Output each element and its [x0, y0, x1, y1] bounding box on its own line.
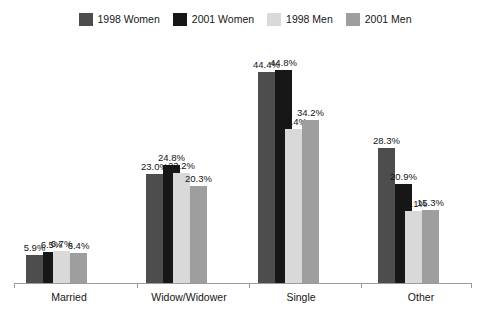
- bar-slot: 23.2%: [173, 40, 190, 283]
- bar-slot: 32.4%: [285, 40, 302, 283]
- legend-label: 1998 Women: [98, 13, 160, 26]
- legend-label: 2001 Men: [365, 13, 412, 26]
- legend-entry: 1998 Men: [267, 13, 333, 26]
- bar-slot: 34.2%: [302, 40, 319, 283]
- bar-slot: 20.3%: [190, 40, 207, 283]
- bar-group: 44.4%44.8%32.4%34.2%: [258, 40, 319, 283]
- bar[interactable]: [378, 148, 395, 283]
- x-axis-tick: [249, 284, 250, 288]
- x-axis-label-3: Other: [408, 291, 434, 304]
- bar-value-label: 34.2%: [297, 107, 324, 118]
- legend-entry: 2001 Women: [173, 13, 254, 26]
- x-axis-cap-left: [14, 284, 15, 288]
- bar[interactable]: [285, 129, 302, 283]
- bar-slot: 6.4%: [70, 40, 87, 283]
- bar[interactable]: [422, 210, 439, 283]
- bar[interactable]: [302, 120, 319, 283]
- bar[interactable]: [173, 173, 190, 283]
- bar-value-label: 6.4%: [68, 240, 90, 251]
- bar-slot: 28.3%: [378, 40, 395, 283]
- bar[interactable]: [70, 253, 87, 283]
- bar-value-label: 15.3%: [417, 197, 444, 208]
- x-axis-label-0: Married: [51, 291, 87, 304]
- bar-slot: 44.4%: [258, 40, 275, 283]
- chart-legend: 1998 Women2001 Women1998 Men2001 Men: [0, 13, 490, 26]
- legend-swatch-2001-men: [346, 13, 360, 26]
- x-axis-line: [14, 283, 472, 284]
- bar-group: 28.3%20.9%15.1%15.3%: [378, 40, 439, 283]
- plot-area: 5.9%6.5%6.7%6.4%23.0%24.8%23.2%20.3%44.4…: [18, 40, 473, 283]
- legend-swatch-1998-women: [79, 13, 93, 26]
- bar-slot: 15.1%: [405, 40, 422, 283]
- bar[interactable]: [190, 186, 207, 283]
- bar-group: 23.0%24.8%23.2%20.3%: [146, 40, 207, 283]
- legend-swatch-1998-men: [267, 13, 281, 26]
- bar-slot: 15.3%: [422, 40, 439, 283]
- legend-entry: 1998 Women: [79, 13, 160, 26]
- bar-chart: 1998 Women2001 Women1998 Men2001 Men 5.9…: [0, 0, 490, 319]
- x-axis-label-1: Widow/Widower: [151, 291, 226, 304]
- bar[interactable]: [26, 255, 43, 283]
- x-axis-label-2: Single: [286, 291, 315, 304]
- bar-value-label: 20.3%: [185, 173, 212, 184]
- bar-group: 5.9%6.5%6.7%6.4%: [26, 40, 87, 283]
- legend-label: 2001 Women: [192, 13, 254, 26]
- bar[interactable]: [405, 211, 422, 283]
- bar[interactable]: [53, 251, 70, 283]
- x-axis-cap-right: [471, 284, 472, 288]
- x-axis-tick: [361, 284, 362, 288]
- bar[interactable]: [258, 72, 275, 283]
- legend-entry: 2001 Men: [346, 13, 412, 26]
- legend-label: 1998 Men: [286, 13, 333, 26]
- legend-swatch-2001-women: [173, 13, 187, 26]
- x-axis-tick: [137, 284, 138, 288]
- bar[interactable]: [146, 174, 163, 283]
